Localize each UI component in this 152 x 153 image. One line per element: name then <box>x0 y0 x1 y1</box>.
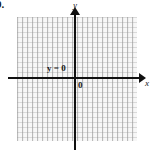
equation-annotation: y = 0 <box>47 63 66 73</box>
x-axis-label: x <box>145 78 149 88</box>
y-axis-label: y <box>73 0 77 10</box>
y-axis-line <box>74 14 76 150</box>
graph-paper-grid <box>17 17 137 141</box>
origin-label: 0 <box>78 80 83 90</box>
graph-figure: 9. x y y = 0 0 <box>0 0 152 153</box>
problem-number-label: 9. <box>0 0 4 10</box>
